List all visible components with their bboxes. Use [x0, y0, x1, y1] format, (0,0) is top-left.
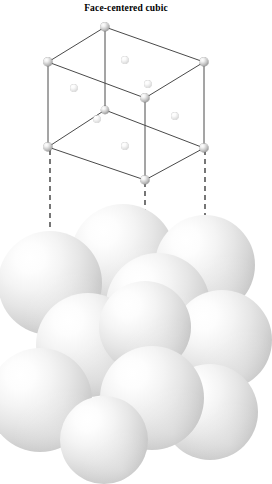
sphere-bottom-mid [60, 396, 148, 484]
